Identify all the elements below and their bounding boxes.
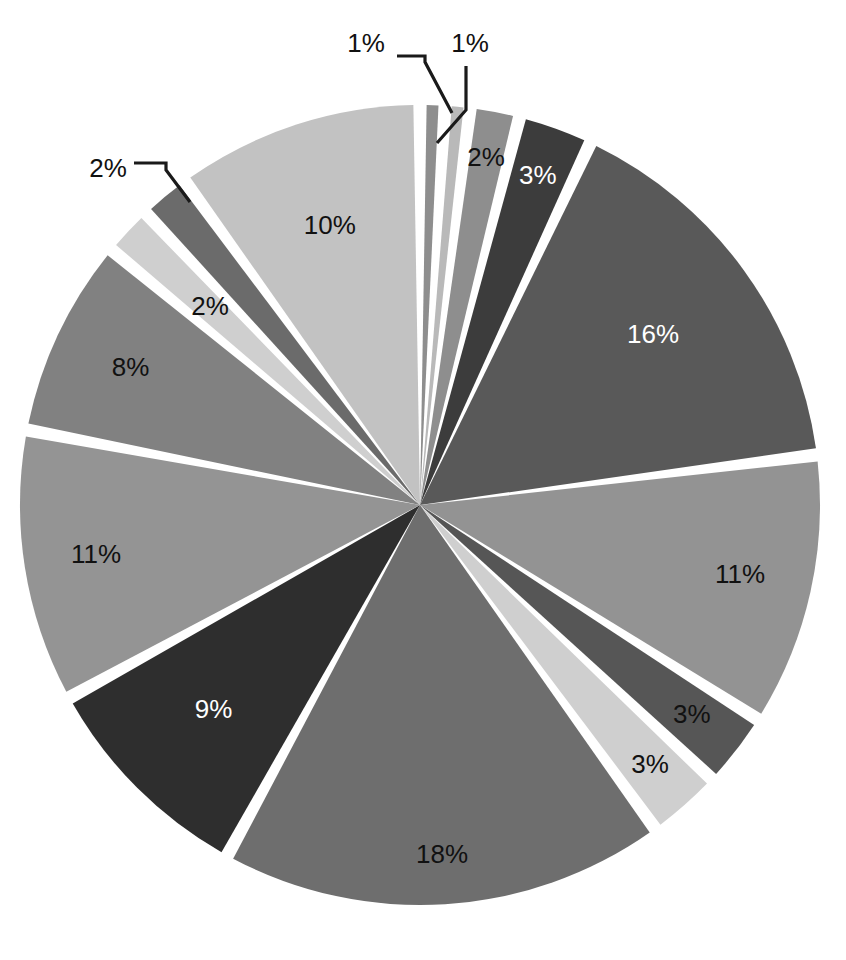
slice-label: 9% xyxy=(195,694,233,724)
slice-label: 3% xyxy=(631,749,669,779)
slice-label: 3% xyxy=(673,699,711,729)
slice-callout-label: 1% xyxy=(347,28,385,58)
slice-label: 11% xyxy=(71,539,121,569)
slice-label: 10% xyxy=(304,210,356,240)
slice-label: 3% xyxy=(519,160,557,190)
slice-label: 11% xyxy=(715,559,765,589)
slice-label: 8% xyxy=(112,352,150,382)
slice-callout-label: 2% xyxy=(89,153,127,183)
pie-chart-svg: 1%1%2%3%16%11%3%3%18%9%11%8%2%2%10% xyxy=(0,0,846,960)
pie-chart-figure: 1%1%2%3%16%11%3%3%18%9%11%8%2%2%10% xyxy=(0,0,846,960)
slice-callout-label: 1% xyxy=(451,28,489,58)
slice-label: 2% xyxy=(467,142,505,172)
slice-label: 2% xyxy=(191,291,229,321)
slice-label: 18% xyxy=(416,839,468,869)
slice-label: 16% xyxy=(627,319,679,349)
